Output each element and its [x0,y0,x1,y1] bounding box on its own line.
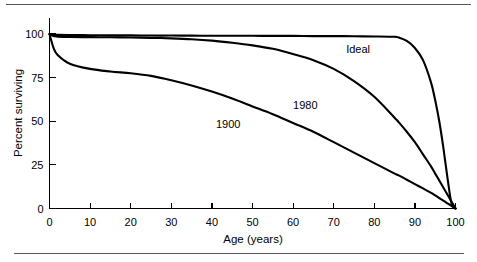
chart-svg: 0255075100 0102030405060708090100 190019… [0,0,477,262]
x-tick-label-60: 60 [287,216,299,228]
x-tick-label-0: 0 [46,216,52,228]
x-tick-label-10: 10 [84,216,96,228]
y-axis-ticks [50,34,56,209]
x-tick-label-30: 30 [165,216,177,228]
x-tick-label-100: 100 [446,216,464,228]
x-tick-label-20: 20 [125,216,137,228]
y-tick-label-100: 100 [25,28,43,40]
y-tick-label-50: 50 [31,115,43,127]
curve-labels: 19001980Ideal [216,43,370,130]
x-axis-tick-labels: 0102030405060708090100 [46,216,464,228]
x-tick-label-70: 70 [328,216,340,228]
curve-label-ideal: Ideal [346,43,370,55]
y-axis-tick-labels: 0255075100 [25,28,43,215]
x-tick-label-40: 40 [206,216,218,228]
curve-1900 [50,34,456,209]
y-tick-label-25: 25 [31,159,43,171]
curve-label-1980: 1980 [293,99,317,111]
curve-ideal [50,34,456,209]
y-tick-label-75: 75 [31,72,43,84]
x-tick-label-50: 50 [246,216,258,228]
y-tick-label-0: 0 [37,203,43,215]
y-axis-title: Percent surviving [12,69,24,157]
x-axis-ticks [50,203,456,209]
x-axis-title: Age (years) [223,233,283,245]
curve-label-1900: 1900 [216,118,240,130]
survival-curve-figure: 0255075100 0102030405060708090100 190019… [0,0,477,262]
curve-1980 [50,34,456,209]
x-tick-label-90: 90 [409,216,421,228]
x-tick-label-80: 80 [368,216,380,228]
